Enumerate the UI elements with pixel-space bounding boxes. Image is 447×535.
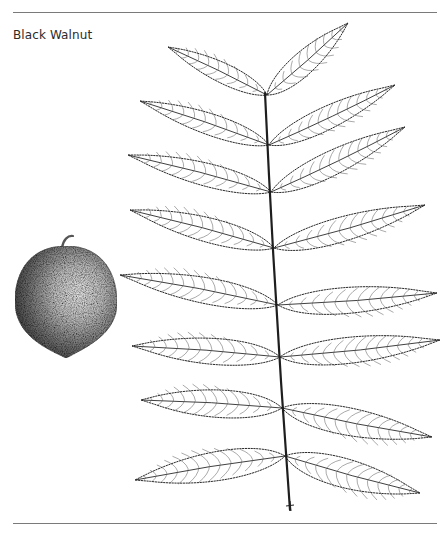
leaflet-left-6 [130, 206, 274, 250]
leaflet-left-4 [128, 152, 271, 194]
leaflet-right-7 [274, 205, 425, 250]
leaflet-left-2 [140, 100, 269, 146]
leaflet-left-8 [120, 268, 278, 309]
leaflet-left-14 [135, 448, 285, 484]
leaflet-left-10 [132, 332, 280, 365]
leaflet-right-9 [278, 287, 437, 317]
leaflet-right-13 [282, 404, 432, 446]
leaflet-right-15 [285, 453, 420, 501]
nut-body [15, 246, 117, 358]
leaflet-left-1 [168, 47, 267, 95]
black-walnut-illustration [0, 0, 447, 535]
walnut-nut [15, 236, 117, 358]
leaflet-right-11 [280, 336, 440, 367]
leaflet-left-12 [141, 384, 282, 418]
leaflet-terminal [267, 23, 348, 95]
bottom-rule [13, 523, 437, 524]
compound-leaf [120, 23, 440, 511]
illustration-page: Black Walnut [0, 0, 447, 535]
